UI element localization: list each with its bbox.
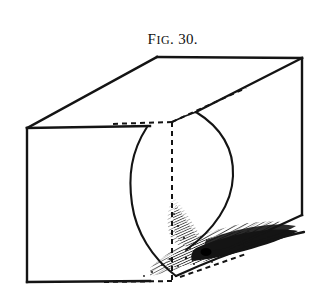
edge-top-rear — [157, 57, 302, 58]
edge-front-bottom — [27, 281, 150, 282]
box-front-face — [27, 122, 172, 282]
figure-illustration — [0, 0, 328, 304]
figure-plate: FIG. 30. — [0, 0, 328, 304]
box-faces — [27, 57, 302, 282]
valley-dark-core — [201, 248, 212, 256]
